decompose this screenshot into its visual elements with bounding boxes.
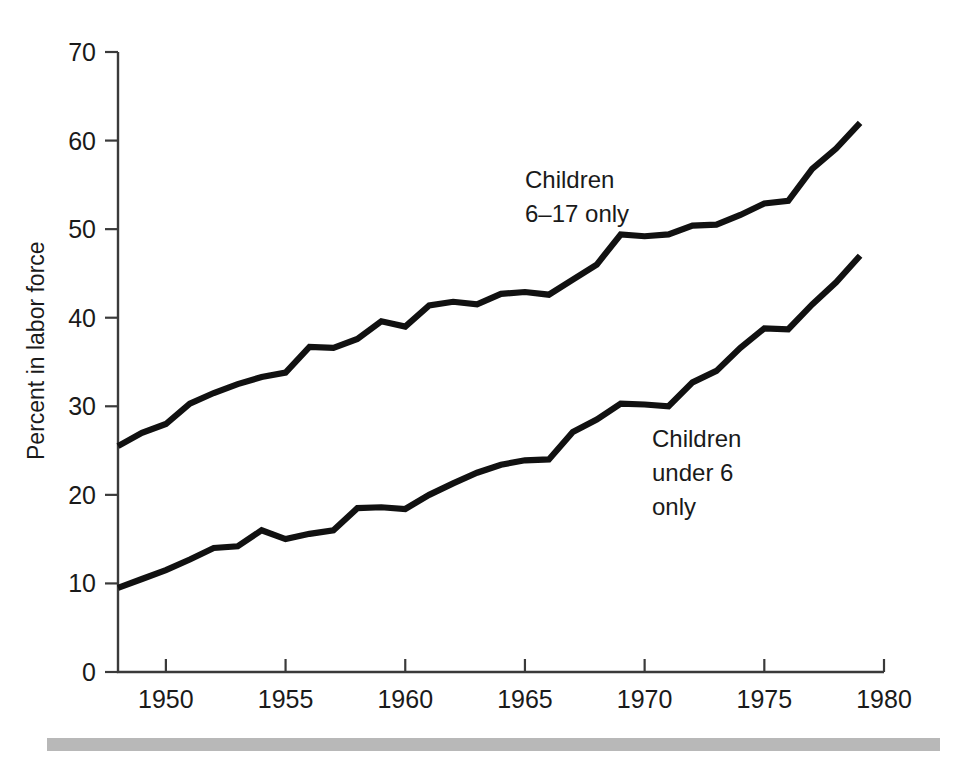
y-axis-title: Percent in labor force [23,241,49,460]
x-tick-label: 1965 [497,685,553,713]
x-tick-label: 1975 [737,685,793,713]
series-line-children-6-17 [118,123,860,446]
annotation-lower-line2: under 6 [652,459,733,486]
x-axis-tick-labels: 1950195519601965197019751980 [138,685,912,713]
x-axis-tick-marks [166,659,884,672]
y-axis-tick-marks [105,52,118,672]
axis-group [105,52,884,672]
line-chart: 010203040506070 195019551960196519701975… [0,0,957,769]
y-tick-label: 0 [82,658,96,686]
x-tick-label: 1955 [258,685,314,713]
y-tick-label: 60 [68,127,96,155]
annotation-upper-line2: 6–17 only [525,200,629,227]
y-tick-label: 30 [68,392,96,420]
footer-divider-rule [47,738,940,751]
y-tick-label: 40 [68,304,96,332]
annotation-children-under-6: Children under 6 only [652,425,741,520]
axis-lines [118,52,884,672]
x-tick-label: 1960 [377,685,433,713]
data-series-group [118,123,860,588]
annotation-lower-line1: Children [652,425,741,452]
figure-container: 010203040506070 195019551960196519701975… [0,0,957,769]
x-tick-label: 1980 [856,685,912,713]
y-axis-tick-labels: 010203040506070 [68,38,96,686]
annotation-children-6-17: Children 6–17 only [525,166,629,227]
annotation-upper-line1: Children [525,166,614,193]
y-tick-label: 20 [68,481,96,509]
y-tick-label: 70 [68,38,96,66]
y-tick-label: 50 [68,215,96,243]
series-line-children-under-6 [118,256,860,588]
x-tick-label: 1950 [138,685,194,713]
y-tick-label: 10 [68,569,96,597]
annotation-lower-line3: only [652,493,696,520]
x-tick-label: 1970 [617,685,673,713]
